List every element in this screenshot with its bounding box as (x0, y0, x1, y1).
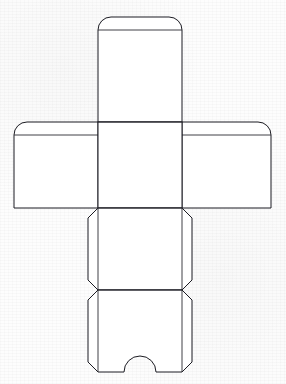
box-dieline-drawing (0, 0, 286, 384)
middle-panel-with-side-tabs (88, 208, 192, 290)
top-panel-with-tab (98, 17, 182, 122)
bottom-panel-with-side-tabs-and-notch (88, 290, 192, 372)
template-page: Cube Box Papercraft Dieline cross-layout… (0, 0, 286, 384)
center-face-panel (98, 122, 182, 208)
